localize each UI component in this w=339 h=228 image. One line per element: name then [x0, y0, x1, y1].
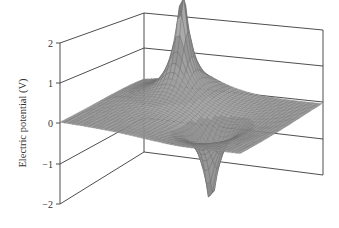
tick-label: 1 [48, 78, 53, 89]
tick-label: 2 [48, 38, 53, 49]
tick-label: −1 [42, 159, 53, 170]
back-wall-gridline-neg2 [144, 152, 323, 175]
tick-label: −2 [42, 199, 53, 210]
left-wall-gridline-2 [60, 13, 144, 43]
potential-surface-mesh [60, 0, 322, 197]
tick-label: 0 [48, 118, 53, 129]
back-wall-gridline-2 [144, 13, 323, 30]
surface-plot: 2 1 0 −1 −2 Electric potential (V) [0, 0, 339, 228]
left-wall-gridline-1 [60, 48, 144, 83]
z-tick-labels: 2 1 0 −1 −2 [42, 38, 53, 210]
z-axis-label: Electric potential (V) [17, 78, 29, 168]
left-wall-gridline-neg2 [60, 152, 144, 204]
